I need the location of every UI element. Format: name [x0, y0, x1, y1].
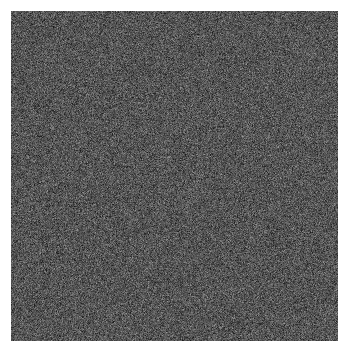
figure-root [0, 0, 350, 353]
random-noise-image [11, 11, 338, 341]
noise-image-axes [11, 11, 338, 341]
